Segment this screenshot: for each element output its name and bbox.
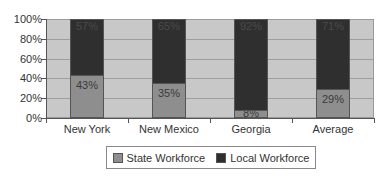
- bar-value-label: 43%: [71, 79, 103, 91]
- legend: State Workforce Local Workforce: [106, 146, 316, 169]
- bar-local-average: 71%: [316, 19, 350, 90]
- x-tick: [374, 118, 375, 123]
- legend-item-local: Local Workforce: [216, 152, 309, 164]
- y-tick-label: 40%: [20, 72, 42, 84]
- local-swatch-icon: [216, 153, 226, 163]
- y-axis: [46, 19, 47, 119]
- x-axis-label: Average: [292, 123, 374, 135]
- legend-label-local: Local Workforce: [230, 152, 309, 164]
- bar-state-new-york: 43%: [70, 75, 104, 118]
- state-swatch-icon: [113, 153, 123, 163]
- x-axis-label: Georgia: [210, 123, 292, 135]
- y-tick-label: 20%: [20, 92, 42, 104]
- y-tick-label: 60%: [20, 53, 42, 65]
- x-axis-label: New Mexico: [128, 123, 210, 135]
- bar-value-label: 71%: [317, 20, 349, 32]
- bar-value-label: 35%: [153, 87, 185, 99]
- bar-value-label: 65%: [153, 20, 185, 32]
- bar-local-new-york: 57%: [70, 19, 104, 76]
- bar-value-label: 57%: [71, 20, 103, 32]
- bar-state-average: 29%: [316, 89, 350, 118]
- y-tick-label: 100%: [14, 13, 42, 25]
- bar-local-new-mexico: 65%: [152, 19, 186, 84]
- legend-label-state: State Workforce: [127, 152, 206, 164]
- bar-local-georgia: 92%: [234, 19, 268, 111]
- bar-state-new-mexico: 35%: [152, 83, 186, 118]
- y-tick-label: 80%: [20, 33, 42, 45]
- y-tick-label: 0%: [26, 112, 42, 124]
- legend-item-state: State Workforce: [113, 152, 206, 164]
- bar-value-label: 29%: [317, 93, 349, 105]
- bar-state-georgia: 8%: [234, 110, 268, 118]
- bar-value-label: 92%: [235, 20, 267, 32]
- x-axis-label: New York: [46, 123, 128, 135]
- stacked-bar-chart: 0%20%40%60%80%100% 43%57%35%65%8%92%29%7…: [0, 0, 390, 176]
